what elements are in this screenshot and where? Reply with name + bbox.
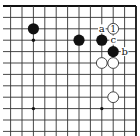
letter-mark-c: c: [110, 34, 116, 45]
letter-mark-a: a: [99, 23, 105, 34]
white-stone: [96, 58, 107, 69]
black-stone: [108, 46, 119, 57]
black-stone: [73, 35, 84, 46]
white-stone: [108, 92, 119, 103]
black-stone: [28, 23, 39, 34]
black-stone: [96, 35, 107, 46]
go-board-diagram: 1 acb: [0, 0, 140, 136]
star-point: [32, 39, 35, 42]
star-point: [100, 107, 103, 110]
white-stone: [108, 58, 119, 69]
letter-mark-b: b: [121, 46, 127, 57]
star-point: [32, 107, 35, 110]
move-number-label: 1: [110, 24, 115, 34]
